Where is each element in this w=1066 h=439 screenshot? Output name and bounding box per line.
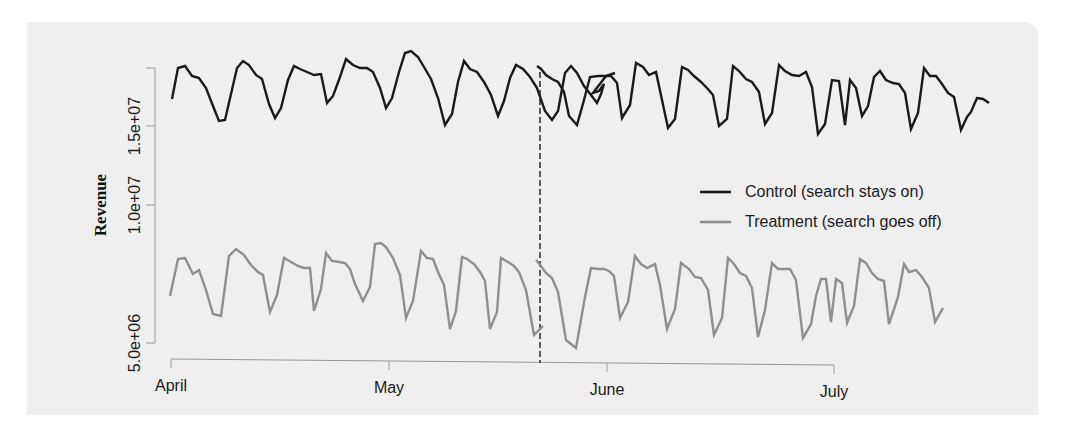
treatment-series-line-2 xyxy=(536,256,943,348)
x-tick-label: June xyxy=(590,381,625,398)
x-tick-label: July xyxy=(820,383,848,400)
y-tick-label: 5.0e+06 xyxy=(126,314,143,372)
y-tick-label: 1.5e+07 xyxy=(126,97,143,155)
y-tick-label: 1.0e+07 xyxy=(126,176,143,234)
control-series-line xyxy=(172,51,615,125)
treatment-series-line xyxy=(170,243,543,335)
x-axis: April May June July xyxy=(155,359,848,400)
y-axis: 1.5e+07 1.0e+07 5.0e+06 Revenue xyxy=(91,68,155,372)
x-tick-label: April xyxy=(155,377,187,394)
legend: Control (search stays on) Treatment (sea… xyxy=(700,183,942,230)
legend-label-treatment: Treatment (search goes off) xyxy=(745,213,942,230)
chart-svg: 1.5e+07 1.0e+07 5.0e+06 Revenue April Ma… xyxy=(0,0,1066,439)
y-axis-title: Revenue xyxy=(91,173,110,236)
legend-label-control: Control (search stays on) xyxy=(745,183,924,200)
control-series-line-2 xyxy=(537,63,989,134)
x-tick-label: May xyxy=(374,379,404,396)
